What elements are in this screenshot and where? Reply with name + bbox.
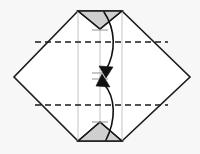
origami-diagram-canvas [0, 0, 200, 154]
origami-diagram-figure [0, 0, 200, 154]
